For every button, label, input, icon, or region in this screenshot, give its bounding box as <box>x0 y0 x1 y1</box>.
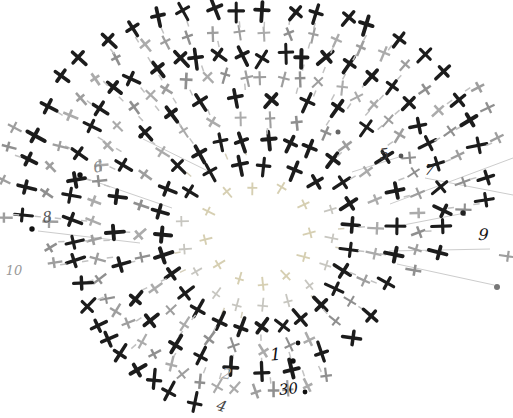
stitch-mark <box>281 270 291 280</box>
stitch-stroke <box>233 163 248 166</box>
connector-dash <box>379 95 383 100</box>
stitch-mark <box>179 125 188 137</box>
stitch-mark <box>293 310 306 325</box>
connector-dash <box>55 218 61 219</box>
connector-dash <box>296 88 298 94</box>
stitch-stroke <box>262 277 263 291</box>
connector-dash <box>135 37 138 42</box>
connector-dash <box>82 261 88 262</box>
stitch-mark <box>166 268 180 279</box>
stitch-mark <box>255 362 269 380</box>
connector-dash <box>116 148 121 151</box>
stitch-stroke <box>53 257 55 268</box>
stitch-mark <box>191 268 202 276</box>
stitch-mark <box>342 218 359 232</box>
stitch-mark <box>76 93 86 105</box>
stitch-mark <box>251 384 261 399</box>
stitch-mark <box>382 115 393 127</box>
stitch-mark <box>241 71 253 87</box>
stitch-stroke <box>235 326 247 330</box>
stitch-mark <box>177 3 189 19</box>
stitch-mark <box>236 47 248 65</box>
stitch-mark <box>155 228 171 242</box>
stitch-mark <box>284 27 294 40</box>
connector-dash <box>98 137 103 140</box>
connector-dash <box>155 106 159 111</box>
stitch-mark <box>134 229 146 240</box>
stitch-mark <box>410 119 426 133</box>
stitch-mark <box>155 248 172 262</box>
stitch-mark <box>357 275 370 287</box>
stitch-mark <box>277 182 286 194</box>
stitch-mark <box>179 244 192 255</box>
stitch-stroke <box>212 384 223 391</box>
stitch-mark <box>490 132 503 143</box>
stitch-mark <box>63 214 81 226</box>
stitch-stroke <box>360 22 373 26</box>
connector-dash <box>81 220 87 221</box>
connector-dash <box>314 91 316 97</box>
stitch-stroke <box>291 122 303 123</box>
stitch-stroke <box>485 171 489 183</box>
stitch-mark <box>325 234 339 243</box>
connector-dash <box>202 66 204 72</box>
connector-dash <box>180 270 186 273</box>
connector-dash <box>270 377 271 383</box>
stitch-mark <box>320 126 331 140</box>
stitch-stroke <box>265 118 275 119</box>
stitch-mark <box>285 137 296 152</box>
stitch-stroke <box>348 296 354 307</box>
stitch-stroke <box>69 188 72 202</box>
stitch-mark <box>365 70 377 84</box>
stitch-mark <box>408 244 422 255</box>
stitch-stroke <box>116 190 118 203</box>
stitch-mark <box>180 73 193 90</box>
stitch-mark <box>18 181 35 193</box>
stitch-stroke <box>285 140 296 146</box>
stitch-mark <box>314 297 327 310</box>
stitch-mark <box>140 39 151 52</box>
stitch-mark <box>378 278 393 289</box>
stitch-mark <box>366 248 382 259</box>
stitch-mark <box>432 105 444 116</box>
connector-dash <box>358 251 364 252</box>
stitch-stroke <box>255 10 269 11</box>
stitch-mark <box>247 182 257 195</box>
stitch-mark <box>152 63 164 77</box>
stitch-mark <box>212 288 221 299</box>
connector-dash <box>141 87 145 92</box>
stitch-mark <box>340 243 358 256</box>
stitch-mark <box>189 49 202 68</box>
stitch-stroke <box>151 284 158 293</box>
round-label-7: 7 <box>424 161 436 180</box>
stitch-stroke <box>310 11 322 15</box>
stitch-mark <box>106 226 124 240</box>
stitch-stroke <box>208 5 222 10</box>
connector-dash <box>302 370 304 376</box>
stitch-mark <box>103 141 113 151</box>
stitch-mark <box>130 365 145 376</box>
connector-dash <box>141 288 147 291</box>
round-label-8: 8 <box>41 207 53 226</box>
round-start-dot <box>460 210 465 215</box>
stitch-mark <box>212 49 226 60</box>
stitch-mark <box>200 234 213 244</box>
stitch-mark <box>363 309 376 321</box>
stitch-mark <box>378 46 390 61</box>
stitch-mark <box>367 222 384 235</box>
stitch-stroke <box>204 234 207 244</box>
stitch-mark <box>113 258 129 271</box>
stitch-mark <box>394 129 405 143</box>
stitch-stroke <box>377 222 378 235</box>
stitch-stroke <box>288 167 301 172</box>
stitch-mark <box>165 356 177 371</box>
stitch-mark <box>166 305 176 315</box>
stitch-mark <box>27 130 44 142</box>
stitch-stroke <box>283 300 292 302</box>
stitch-mark <box>236 133 248 151</box>
stitch-mark <box>144 314 158 326</box>
round-label-9: 9 <box>478 225 489 245</box>
stitch-mark <box>183 186 197 197</box>
stitch-mark <box>297 252 310 262</box>
stitch-stroke <box>477 138 480 153</box>
